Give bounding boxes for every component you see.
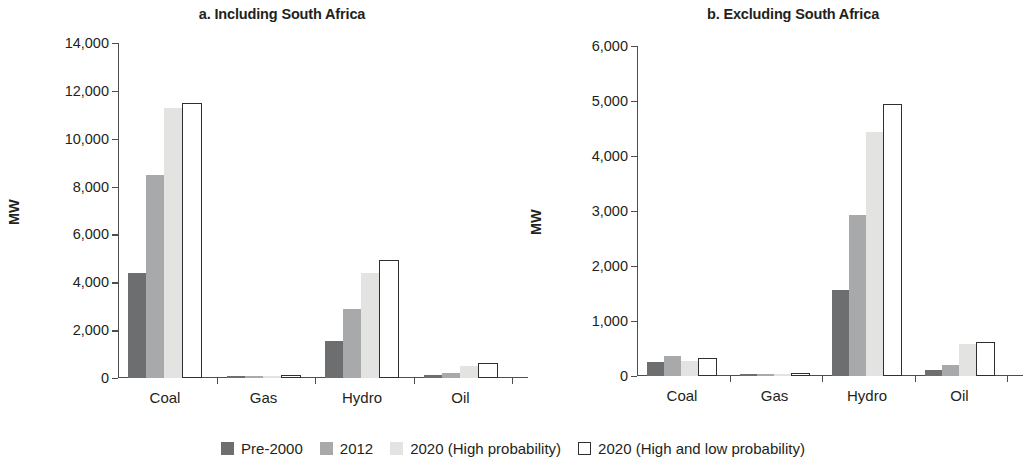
bar xyxy=(866,132,883,376)
bar xyxy=(698,358,717,376)
bar xyxy=(791,373,810,376)
legend-label: 2012 xyxy=(340,440,373,457)
panel-a-y-axis-title: MW xyxy=(6,199,22,225)
chart-panel-b: b. Excluding South Africa MW 01,0002,000… xyxy=(520,0,1026,420)
y-tick-label: 1,000 xyxy=(592,313,628,329)
y-tick-label: 6,000 xyxy=(592,38,628,54)
bar-group: Oil xyxy=(424,43,498,378)
x-separator-tick xyxy=(730,376,731,382)
panel-b-title: b. Excluding South Africa xyxy=(520,6,1026,22)
bar xyxy=(442,373,460,378)
bar-group: Gas xyxy=(740,46,810,376)
y-tick-label: 4,000 xyxy=(592,148,628,164)
panel-b-y-axis-title: MW xyxy=(528,209,544,235)
bar xyxy=(681,361,698,376)
bar xyxy=(128,273,146,378)
x-category-label: Oil xyxy=(424,389,498,406)
bar xyxy=(343,309,361,378)
x-category-label: Hydro xyxy=(832,387,902,404)
y-tick-mark xyxy=(112,43,118,44)
y-tick-mark xyxy=(631,321,637,322)
y-tick-label: 4,000 xyxy=(73,274,109,290)
panel-b-plot-area: 01,0002,0003,0004,0005,0006,000 CoalGasH… xyxy=(637,46,1007,376)
x-category-label: Oil xyxy=(925,387,995,404)
legend-label: 2020 (High and low probability) xyxy=(598,440,805,457)
y-tick-mark xyxy=(631,266,637,267)
y-tick-label: 0 xyxy=(620,368,628,384)
bar xyxy=(757,374,774,376)
y-tick-label: 8,000 xyxy=(73,179,109,195)
chart-panel-a: a. Including South Africa MW 02,0004,000… xyxy=(0,0,520,420)
outlined-white-swatch xyxy=(578,442,591,455)
y-tick-label: 6,000 xyxy=(73,226,109,242)
bar-group: Gas xyxy=(227,43,301,378)
bar xyxy=(245,376,263,378)
legend-item: 2020 (High probability) xyxy=(390,440,561,457)
x-separator-tick xyxy=(822,376,823,382)
bar xyxy=(849,215,866,376)
chart-legend: Pre-200020122020 (High probability)2020 … xyxy=(0,440,1026,457)
y-tick-mark xyxy=(631,211,637,212)
y-tick-mark xyxy=(112,187,118,188)
bar xyxy=(379,260,399,378)
bar xyxy=(647,362,664,376)
bar-group: Oil xyxy=(925,46,995,376)
y-tick-mark xyxy=(112,91,118,92)
x-category-label: Gas xyxy=(740,387,810,404)
bar xyxy=(478,363,498,378)
bar-group: Hydro xyxy=(325,43,399,378)
bar xyxy=(164,108,182,378)
bar-group: Coal xyxy=(647,46,717,376)
y-tick-mark xyxy=(631,46,637,47)
legend-item: Pre-2000 xyxy=(221,440,303,457)
panel-b-y-axis-line xyxy=(637,46,638,376)
filled-dark-gray-swatch xyxy=(221,442,234,455)
bar xyxy=(424,375,442,378)
x-separator-tick xyxy=(414,378,415,384)
bar xyxy=(325,341,343,378)
y-tick-mark xyxy=(631,156,637,157)
x-category-label: Hydro xyxy=(325,389,399,406)
legend-label: Pre-2000 xyxy=(241,440,303,457)
bar xyxy=(774,374,791,376)
bar xyxy=(361,273,379,378)
x-category-label: Coal xyxy=(128,389,202,406)
panel-a-y-axis-line xyxy=(118,43,119,378)
legend-item: 2012 xyxy=(320,440,373,457)
bar xyxy=(146,175,164,378)
x-separator-tick xyxy=(1007,376,1008,382)
y-tick-label: 2,000 xyxy=(592,258,628,274)
bar-group: Coal xyxy=(128,43,202,378)
x-category-label: Coal xyxy=(647,387,717,404)
y-tick-mark xyxy=(112,378,118,379)
y-tick-mark xyxy=(112,139,118,140)
y-tick-label: 10,000 xyxy=(65,131,109,147)
bar xyxy=(740,374,757,376)
y-tick-label: 3,000 xyxy=(592,203,628,219)
bar xyxy=(832,290,849,376)
y-tick-label: 0 xyxy=(101,370,109,386)
filled-medium-gray-swatch xyxy=(320,442,333,455)
bar xyxy=(263,376,281,378)
bar xyxy=(925,370,942,376)
y-tick-label: 12,000 xyxy=(65,83,109,99)
panel-a-title: a. Including South Africa xyxy=(0,6,520,22)
x-separator-tick xyxy=(315,378,316,384)
bar xyxy=(460,366,478,378)
bar xyxy=(883,104,902,376)
y-tick-label: 5,000 xyxy=(592,93,628,109)
x-separator-tick xyxy=(512,378,513,384)
y-tick-mark xyxy=(631,101,637,102)
bar xyxy=(281,375,301,378)
panel-a-plot-area: 02,0004,0006,0008,00010,00012,00014,000 … xyxy=(118,43,512,378)
x-category-label: Gas xyxy=(227,389,301,406)
y-tick-mark xyxy=(112,234,118,235)
x-separator-tick xyxy=(915,376,916,382)
figure-two-panel-bar-chart: a. Including South Africa MW 02,0004,000… xyxy=(0,0,1026,476)
bar xyxy=(959,344,976,376)
y-tick-mark xyxy=(631,376,637,377)
y-tick-label: 14,000 xyxy=(65,35,109,51)
x-separator-tick xyxy=(217,378,218,384)
legend-item: 2020 (High and low probability) xyxy=(578,440,805,457)
legend-label: 2020 (High probability) xyxy=(410,440,561,457)
